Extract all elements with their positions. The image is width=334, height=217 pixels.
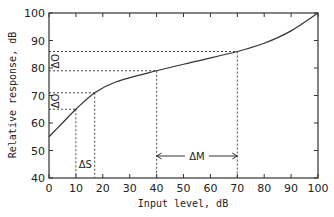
- x-tick-label: 100: [308, 182, 329, 195]
- delta-s-label: ΔS: [79, 159, 92, 170]
- x-tick-label: 70: [230, 182, 244, 195]
- y-tick-label: 40: [31, 172, 45, 185]
- y-tick-label: 70: [31, 90, 45, 103]
- x-tick-label: 10: [69, 182, 83, 195]
- delta-m-label: ΔM: [189, 151, 204, 162]
- y-tick-label: 60: [31, 117, 45, 130]
- y-axis-label: Relative response, dB: [7, 32, 18, 158]
- response-curve: [49, 13, 318, 137]
- x-tick-label: 30: [123, 182, 137, 195]
- x-tick-label: 50: [177, 182, 191, 195]
- x-tick-label: 80: [257, 182, 271, 195]
- delta-o-label: ΔO: [50, 54, 61, 69]
- y-tick-label: 100: [24, 7, 45, 20]
- x-axis-label: Input level, dB: [138, 198, 228, 209]
- delta-o-label: ΔO: [50, 94, 61, 109]
- x-tick-label: 60: [203, 182, 217, 195]
- y-tick-label: 50: [31, 145, 45, 158]
- x-tick-label: 0: [46, 182, 53, 195]
- chart: 0102030405060708090100405060708090100 ΔO…: [0, 0, 334, 217]
- y-tick-label: 90: [31, 35, 45, 48]
- y-tick-label: 80: [31, 62, 45, 75]
- x-tick-label: 20: [96, 182, 110, 195]
- x-tick-label: 90: [284, 182, 298, 195]
- x-tick-label: 40: [150, 182, 164, 195]
- reference-lines: [49, 52, 237, 179]
